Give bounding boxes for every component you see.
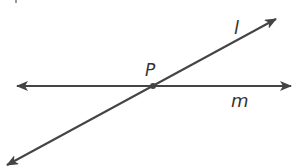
diagram-canvas: P l m [0,0,303,167]
cropped-glyph-remnant [15,0,17,3]
line-l-label: l [234,17,239,38]
line-m-label: m [231,90,249,111]
point-p [150,83,156,89]
diagram-svg: P l m [0,0,303,167]
point-p-label: P [145,60,156,80]
